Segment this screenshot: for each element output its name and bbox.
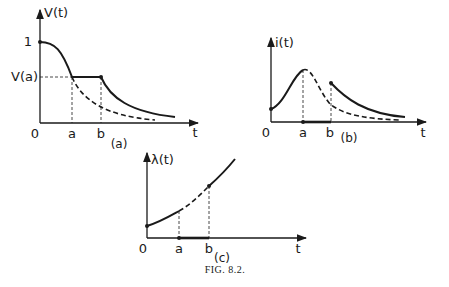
v-dashed-curve bbox=[72, 77, 155, 120]
start-point bbox=[38, 40, 42, 44]
a-point bbox=[177, 236, 181, 240]
x-tick-b: b bbox=[97, 126, 105, 141]
i-dashed-curve bbox=[303, 70, 400, 120]
b-point bbox=[207, 184, 211, 188]
i-solid-rise bbox=[271, 70, 303, 109]
x-tick-a: a bbox=[175, 241, 183, 256]
x-axis-label: t bbox=[295, 241, 300, 256]
x-tick-b: b bbox=[326, 125, 334, 140]
figure-8-2: V(t) 1 V(a) 0 a b t (a) i(t) 0 a b t (b) bbox=[0, 0, 449, 287]
panel-label: (c) bbox=[214, 251, 230, 265]
origin-label: 0 bbox=[139, 241, 147, 256]
start-point bbox=[145, 224, 149, 228]
origin-label: 0 bbox=[31, 126, 39, 141]
figure-caption: FIG. 8.2. bbox=[205, 264, 246, 275]
panel-a: V(t) 1 V(a) 0 a b t (a) bbox=[11, 5, 198, 151]
lambda-solid-start bbox=[147, 211, 179, 226]
y-axis-label: λ(t) bbox=[151, 152, 174, 167]
panel-label: (b) bbox=[341, 131, 358, 145]
origin-label: 0 bbox=[262, 125, 270, 140]
y-tick-va: V(a) bbox=[11, 69, 38, 84]
y-axis-label: V(t) bbox=[44, 5, 68, 20]
lambda-dashed-segment bbox=[179, 186, 209, 211]
x-tick-a: a bbox=[299, 125, 307, 140]
x-tick-b: b bbox=[205, 241, 213, 256]
y-tick-1: 1 bbox=[24, 34, 32, 49]
x-axis-label: t bbox=[192, 125, 197, 140]
x-tick-a: a bbox=[68, 126, 76, 141]
b-point bbox=[99, 75, 103, 79]
b-point bbox=[329, 81, 333, 85]
i-solid-decay bbox=[331, 83, 405, 117]
a-point bbox=[301, 120, 305, 124]
panel-c: λ(t) 0 a b t (c) bbox=[139, 152, 306, 265]
x-axis-label: t bbox=[420, 125, 425, 140]
panel-b: i(t) 0 a b t (b) bbox=[262, 35, 426, 145]
start-point bbox=[269, 107, 273, 111]
y-axis-label: i(t) bbox=[275, 35, 294, 50]
panel-label: (a) bbox=[111, 137, 128, 151]
lambda-solid-end bbox=[209, 159, 235, 186]
v-solid-curve bbox=[40, 42, 175, 117]
